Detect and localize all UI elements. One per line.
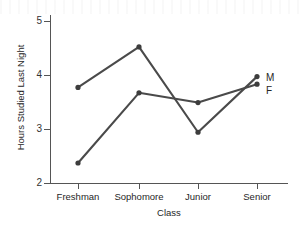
data-point-f-sophomore — [136, 90, 141, 95]
series-label-f: F — [266, 86, 272, 96]
data-point-f-senior — [254, 82, 259, 87]
data-point-m-sophomore — [136, 44, 141, 49]
series-label-m: M — [266, 73, 274, 83]
series-plot — [0, 0, 304, 230]
data-point-m-freshman — [75, 85, 80, 90]
chart-figure: 5 4 3 2 Freshman Sophomore Junior Senior… — [0, 0, 304, 230]
data-point-m-junior — [195, 130, 200, 135]
data-point-f-junior — [195, 100, 200, 105]
series-line-f — [78, 84, 257, 163]
data-point-f-freshman — [75, 160, 80, 165]
data-point-m-senior — [254, 74, 259, 79]
series-line-m — [78, 47, 257, 132]
